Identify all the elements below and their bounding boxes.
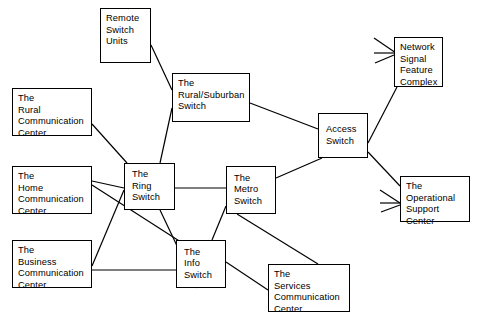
diagram-node-metro_switch[interactable]: The Metro Switch xyxy=(226,166,276,214)
diagram-edge xyxy=(226,262,268,290)
diagram-node-label: The Metro Switch xyxy=(234,173,262,208)
diagram-edge xyxy=(250,103,318,129)
diagram-node-ring_switch[interactable]: The Ring Switch xyxy=(124,163,175,210)
diagram-node-remote_switch_units[interactable]: Remote Switch Units xyxy=(100,8,151,63)
diagram-node-rural_suburban_switch[interactable]: The Rural/Suburban Switch xyxy=(172,73,250,122)
diagram-edge xyxy=(237,214,318,264)
diagram-edge xyxy=(212,206,226,240)
diagram-feeder-line xyxy=(380,190,400,203)
diagram-node-info_switch[interactable]: The Info Switch xyxy=(176,240,226,288)
diagram-node-access_switch[interactable]: Access Switch xyxy=(318,113,368,158)
diagram-edge xyxy=(276,158,322,178)
diagram-node-label: The Info Switch xyxy=(184,247,212,282)
diagram-edge xyxy=(368,152,400,186)
diagram-edge xyxy=(92,190,124,266)
diagram-edge xyxy=(368,87,397,143)
diagram-node-services_communication_center[interactable]: The Services Communication Center xyxy=(268,264,350,312)
diagram-node-label: The Rural Communication Center xyxy=(18,93,84,138)
diagram-node-operational_support_center[interactable]: The Operational Support Center xyxy=(400,176,470,222)
diagram-node-label: The Services Communication Center xyxy=(274,269,340,314)
diagram-node-business_communication_center[interactable]: The Business Communication Center xyxy=(12,240,92,288)
diagram-node-label: The Rural/Suburban Switch xyxy=(178,78,245,111)
diagram-edge xyxy=(92,181,124,188)
diagram-node-rural_communication_center[interactable]: The Rural Communication Center xyxy=(12,88,92,136)
diagram-node-network_signal_feature_complex[interactable]: Network Signal Feature Complex xyxy=(394,37,443,87)
diagram-node-label: The Operational Support Center xyxy=(406,181,455,226)
diagram-node-label: The Home Communication Center xyxy=(18,171,84,216)
diagram-node-label: Network Signal Feature Complex xyxy=(400,42,437,87)
network-diagram: Remote Switch UnitsThe Rural/Suburban Sw… xyxy=(0,0,482,328)
diagram-feeder-line xyxy=(375,55,394,63)
diagram-node-label: The Ring Switch xyxy=(132,169,160,204)
diagram-edge xyxy=(160,108,172,163)
diagram-node-label: Access Switch xyxy=(326,124,357,147)
diagram-feeder-line xyxy=(374,38,396,53)
diagram-feeder-line xyxy=(381,205,400,212)
diagram-node-label: The Business Communication Center xyxy=(18,245,84,290)
diagram-node-home_communication_center[interactable]: The Home Communication Center xyxy=(12,166,92,214)
diagram-node-label: Remote Switch Units xyxy=(106,13,139,46)
diagram-edge xyxy=(151,45,172,90)
diagram-edge xyxy=(92,124,127,163)
